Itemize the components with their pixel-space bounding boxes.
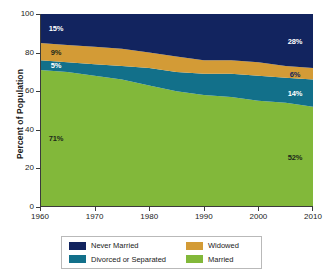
y-tick-label: 20 [25,163,34,172]
annotation-married-1960: 71% [49,134,64,143]
y-tick-mark [36,91,40,92]
y-tick-label: 0 [30,202,34,211]
legend-label: Divorced or Separated [91,255,166,264]
x-tick-label-2010: 2010 [304,212,322,221]
x-tick-label-1960: 1960 [31,212,49,221]
stacked-area-chart-figure: Percent of Population 020406080100 19601… [0,0,323,276]
x-axis-line [40,206,313,207]
x-tick-mark-1970 [95,207,96,211]
y-tick-60: 60 [40,91,41,92]
y-tick-40: 40 [40,130,41,131]
annotation-divorced-or-separated-1960: 5% [51,61,62,70]
y-tick-label: 40 [25,125,34,134]
x-tick-label-2000: 2000 [249,212,267,221]
y-axis-title: Percent of Population [15,54,25,174]
y-tick-mark [36,53,40,54]
annotation-widowed-1960: 9% [51,47,62,56]
legend-item-never-married[interactable]: Never Married [69,241,186,250]
y-tick-mark [36,168,40,169]
y-tick-label: 80 [25,48,34,57]
annotation-never-married-1960: 15% [49,24,64,33]
annotation-never-married-2010: 28% [288,37,303,46]
annotation-widowed-2010: 6% [290,69,301,78]
legend-label: Widowed [208,241,239,250]
x-tick-label-1970: 1970 [86,212,104,221]
legend-swatch-icon [186,255,203,263]
legend-swatch-icon [69,242,86,250]
y-axis-line [40,14,41,207]
legend-swatch-icon [69,255,86,263]
area-series-svg [40,14,313,207]
x-tick-mark-1990 [204,207,205,211]
legend-swatch-icon [186,242,203,250]
annotation-divorced-or-separated-2010: 14% [288,89,303,98]
x-tick-mark-1960 [40,207,41,211]
legend-label: Never Married [91,241,139,250]
y-tick-100: 100 [40,14,41,15]
x-tick-label-1990: 1990 [195,212,213,221]
chart-legend: Never MarriedWidowedDivorced or Separate… [61,236,262,269]
legend-item-married[interactable]: Married [186,255,270,264]
y-tick-mark [36,130,40,131]
y-tick-80: 80 [40,53,41,54]
x-tick-mark-1980 [149,207,150,211]
x-tick-label-1980: 1980 [140,212,158,221]
legend-label: Married [208,255,233,264]
legend-item-widowed[interactable]: Widowed [186,241,270,250]
legend-item-divorced-or-separated[interactable]: Divorced or Separated [69,255,186,264]
y-tick-label: 100 [21,9,34,18]
y-tick-mark [36,14,40,15]
annotation-married-2010: 52% [288,152,303,161]
y-tick-label: 60 [25,86,34,95]
plot-area: 020406080100 196019701980199020002010 15… [40,14,313,207]
y-tick-20: 20 [40,168,41,169]
x-tick-mark-2000 [258,207,259,211]
x-tick-mark-2010 [312,207,313,211]
